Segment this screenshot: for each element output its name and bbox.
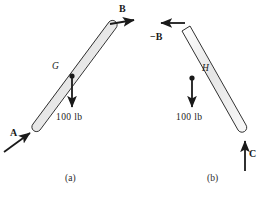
free-body-diagram-canvas	[0, 0, 270, 198]
rod-ab-outline-lower	[33, 22, 109, 124]
force-b-label: B	[119, 4, 126, 14]
panel-a-group	[4, 20, 134, 152]
weight-b-label: 100 lb	[176, 113, 202, 123]
panel-b-group	[161, 23, 247, 171]
caption-b: (b)	[207, 174, 218, 184]
point-g-label: G	[52, 62, 59, 72]
figure-container: A B G 100 lb (a) −B H 100 lb C (b)	[0, 0, 270, 198]
force-c-label: C	[249, 149, 256, 159]
point-h-label: H	[202, 64, 209, 74]
caption-a: (a)	[65, 174, 76, 184]
weight-a-label: 100 lb	[56, 113, 82, 123]
force-a-label: A	[10, 128, 17, 138]
rod-bc-outline-right	[190, 26, 246, 125]
force-minus-b-label: −B	[150, 32, 162, 42]
